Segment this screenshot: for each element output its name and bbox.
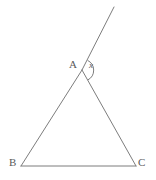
vertex-label-b: B [9,157,16,168]
segment-ray-AD [82,7,114,70]
angle-label-x: x [89,61,93,70]
geometry-canvas [0,0,156,180]
vertex-label-c: C [138,157,145,168]
triangle-and-ray [21,7,136,166]
vertex-label-a: A [69,59,77,70]
segment-AC [82,70,136,166]
segment-AB [21,70,82,166]
geometry-figure: A B C x [0,0,156,180]
